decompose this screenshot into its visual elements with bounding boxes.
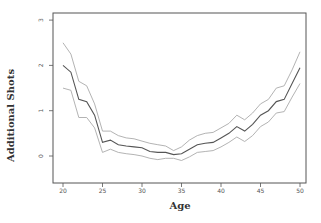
plot-frame xyxy=(53,13,306,183)
x-tick-label: 30 xyxy=(138,187,146,194)
x-tick-label: 25 xyxy=(99,187,107,194)
x-tick-label: 40 xyxy=(217,187,225,194)
y-tick-label: 1 xyxy=(37,109,44,113)
y-axis-label: Additional Shots xyxy=(2,60,20,170)
y-tick-label: 3 xyxy=(37,18,44,22)
lower-band-line xyxy=(63,84,300,161)
x-axis-title: Age xyxy=(150,200,210,211)
upper-band-line xyxy=(63,43,300,151)
y-tick-label: 2 xyxy=(37,63,44,67)
series-layer xyxy=(63,43,300,161)
x-tick-label: 50 xyxy=(296,187,304,194)
y-axis: 0123 xyxy=(37,18,53,158)
y-axis-title: Additional Shots xyxy=(6,68,17,161)
x-tick-label: 35 xyxy=(178,187,186,194)
y-tick-label: 0 xyxy=(37,154,44,158)
line-chart: 0123 20253035404550 xyxy=(0,0,321,223)
x-tick-label: 45 xyxy=(257,187,265,194)
x-tick-label: 20 xyxy=(59,187,67,194)
x-axis: 20253035404550 xyxy=(59,183,304,194)
